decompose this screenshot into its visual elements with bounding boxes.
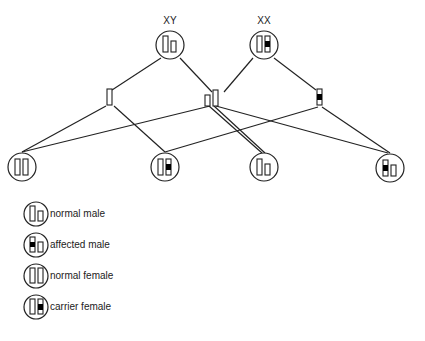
father-to-x-gamete-line bbox=[112, 58, 161, 90]
legend-normal-male-icon bbox=[24, 202, 48, 226]
mother-carrier-female-icon bbox=[250, 31, 278, 59]
gamete-x-icon bbox=[107, 89, 112, 105]
offspring-carrier-female-icon bbox=[151, 153, 179, 181]
mother-to-affected-gamete-line bbox=[274, 58, 316, 90]
mother-genotype-label: XX bbox=[249, 15, 279, 27]
father-normal-male-icon bbox=[156, 31, 184, 59]
x-linked-inheritance-diagram bbox=[0, 0, 425, 341]
offspring-normal-female-icon bbox=[8, 153, 36, 181]
legend-affected-male-label: affected male bbox=[50, 239, 110, 251]
legend-normal-female-icon bbox=[24, 264, 48, 288]
line-x-to-offspring2 bbox=[114, 106, 165, 152]
line-pair-to-offspring3-a bbox=[209, 106, 262, 153]
legend-normal-female-label: normal female bbox=[50, 270, 113, 282]
legend-carrier-female-icon bbox=[24, 295, 48, 319]
mother-to-x-gamete-line bbox=[224, 58, 253, 92]
line-x-to-offspring1 bbox=[22, 106, 106, 152]
offspring-affected-male-icon bbox=[376, 154, 404, 182]
line-pair-to-offspring1 bbox=[22, 106, 210, 152]
father-genotype-label: XY bbox=[155, 15, 185, 27]
father-to-y-gamete-line bbox=[180, 58, 212, 92]
line-affected-to-offspring2 bbox=[165, 107, 318, 152]
legend-affected-male-icon bbox=[24, 233, 48, 257]
offspring-normal-male-icon bbox=[250, 153, 278, 181]
legend-carrier-female-label: carrier female bbox=[50, 301, 111, 313]
legend-normal-male-label: normal male bbox=[50, 208, 105, 220]
gamete-affected-x-icon bbox=[317, 89, 322, 105]
line-affected-to-offspring4 bbox=[322, 107, 390, 153]
gamete-y-and-x-icon bbox=[205, 90, 218, 106]
